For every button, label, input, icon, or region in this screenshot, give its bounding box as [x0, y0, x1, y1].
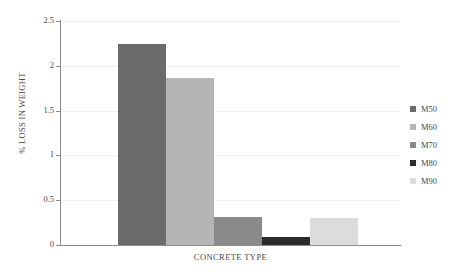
bar-m50: [118, 44, 166, 245]
y-tick-label: 0.5: [0, 195, 62, 204]
legend-swatch-icon: [410, 142, 416, 148]
bar-m80: [262, 237, 310, 245]
legend-item-m80: M80: [410, 154, 437, 172]
legend: M50M60M70M80M90: [410, 100, 437, 190]
x-axis-line: [60, 245, 401, 246]
legend-label: M60: [421, 123, 437, 132]
legend-item-m60: M60: [410, 118, 437, 136]
bar-chart: % LOSS IN WEIGHT 00.511.522.5 CONCRETE T…: [0, 0, 464, 276]
legend-item-m70: M70: [410, 136, 437, 154]
bars-group: [60, 21, 401, 245]
x-axis-title: CONCRETE TYPE: [60, 252, 401, 262]
legend-label: M70: [421, 141, 437, 150]
legend-swatch-icon: [410, 106, 416, 112]
legend-label: M80: [421, 159, 437, 168]
y-tick-label: 2.5: [0, 16, 62, 25]
legend-item-m50: M50: [410, 100, 437, 118]
legend-swatch-icon: [410, 178, 416, 184]
y-tick-label: 1.5: [0, 106, 62, 115]
bar-m60: [166, 78, 214, 245]
y-tick-label: 0: [0, 240, 62, 249]
y-tick-label: 1: [0, 150, 62, 159]
bar-m70: [214, 217, 262, 245]
legend-label: M90: [421, 177, 437, 186]
y-tick-label: 2: [0, 61, 62, 70]
legend-swatch-icon: [410, 124, 416, 130]
legend-item-m90: M90: [410, 172, 437, 190]
legend-swatch-icon: [410, 160, 416, 166]
bar-m90: [310, 218, 358, 245]
legend-label: M50: [421, 105, 437, 114]
